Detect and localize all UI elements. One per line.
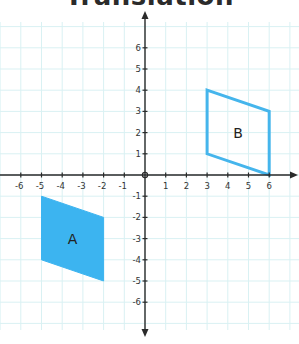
y-tick-label: 4 [136, 85, 141, 95]
x-tick-label: 2 [184, 181, 189, 191]
grid-lines [0, 22, 299, 330]
y-tick-label: -2 [133, 212, 141, 222]
y-tick-label: -4 [133, 255, 141, 265]
shape-label-a: A [68, 231, 78, 247]
y-tick-label: -6 [133, 297, 141, 307]
x-tick-label: 1 [163, 181, 168, 191]
y-tick-label: 6 [136, 43, 141, 53]
x-tick-label: 6 [266, 181, 271, 191]
y-tick-label: 5 [136, 64, 141, 74]
shapes-layer: AB [42, 90, 270, 281]
y-tick-label: -5 [133, 276, 141, 286]
y-axis-arrow-up-icon [142, 11, 149, 19]
y-tick-label: -1 [133, 191, 141, 201]
y-tick-label: -3 [133, 234, 141, 244]
x-tick-label: -3 [77, 181, 85, 191]
axes [0, 11, 298, 337]
x-tick-label: -1 [119, 181, 127, 191]
x-tick-label: 3 [204, 181, 209, 191]
x-tick-label: 5 [246, 181, 251, 191]
y-tick-label: 2 [136, 128, 141, 138]
x-tick-label: -6 [15, 181, 23, 191]
coordinate-plane: AB -6-5-4-3-2-1123456-6-5-4-3-2-1123456 [0, 0, 299, 344]
x-axis-arrow-icon [290, 172, 298, 179]
x-tick-label: -2 [98, 181, 106, 191]
shape-label-b: B [233, 125, 243, 141]
y-axis-arrow-down-icon [142, 329, 149, 337]
x-tick-label: -4 [56, 181, 64, 191]
y-tick-label: 3 [136, 106, 141, 116]
x-tick-label: 4 [225, 181, 230, 191]
y-tick-label: 1 [136, 149, 141, 159]
x-tick-label: -5 [36, 181, 44, 191]
